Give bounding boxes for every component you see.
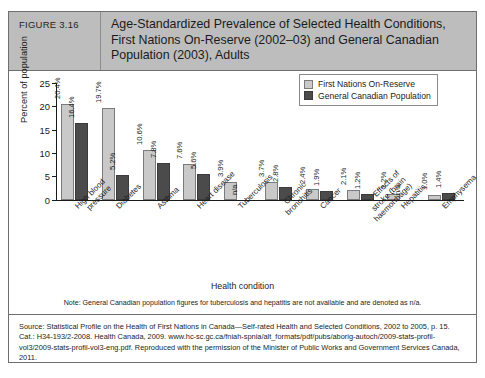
bar-value-label: 5.6%: [189, 151, 198, 171]
figure-note: Note: General Canadian population figure…: [9, 299, 476, 307]
chart-area: Percent of population 0510152025 20.4%16…: [9, 71, 476, 314]
x-axis-title: Health condition: [9, 281, 476, 291]
legend-item-series1: First Nations On-Reserve: [304, 79, 431, 89]
figure-title: Age-Standardized Prevalence of Selected …: [101, 12, 476, 70]
legend-swatch-first-nations: [304, 80, 313, 89]
y-tick-label: 20: [40, 101, 50, 112]
figure-frame: FIGURE 3.16 Age-Standardized Prevalence …: [8, 11, 477, 363]
bar: [75, 123, 88, 200]
legend-label-general-canadian: General Canadian Population: [318, 91, 431, 101]
y-tick-label: 15: [40, 124, 50, 135]
y-tick-mark: [52, 200, 56, 201]
bar-value-label: 1.9%: [312, 169, 321, 189]
bar-value-label: n/a: [230, 184, 239, 198]
legend-swatch-general-canadian: [304, 91, 313, 100]
y-tick-label: 0: [45, 194, 50, 205]
figure-source-block: Source: Statistical Profile on the Healt…: [9, 315, 476, 370]
bar-value-label: 1.2%: [353, 172, 362, 192]
figure-source-text: Source: Statistical Profile on the Healt…: [19, 322, 466, 364]
figure-page: FIGURE 3.16 Age-Standardized Prevalence …: [0, 0, 485, 378]
y-tick-label: 10: [40, 147, 50, 158]
bar-value-label: 7.6%: [175, 142, 184, 162]
bar-group: 19.7%5.2%: [101, 83, 138, 200]
y-tick-label: 25: [40, 77, 50, 88]
y-axis-title: Percent of population: [19, 36, 29, 123]
legend-item-series2: General Canadian Population: [304, 91, 431, 101]
chart-legend: First Nations On-Reserve General Canadia…: [299, 74, 438, 107]
bar: [428, 195, 441, 200]
figure-header: FIGURE 3.16 Age-Standardized Prevalence …: [9, 12, 476, 71]
bar-value-label: 1.4%: [434, 171, 443, 191]
bar-value-label: 2.1%: [339, 168, 348, 188]
bar-value-label: 5.2%: [108, 153, 117, 173]
bar-group: 20.4%16.4%: [60, 83, 97, 200]
bar-value-label: 16.4%: [67, 96, 76, 121]
bar-value-label: 10.6%: [135, 124, 144, 149]
bar-value-label: 7.8%: [149, 141, 158, 161]
bar-group: 10.6%7.8%: [142, 83, 179, 200]
bar-value-label: 19.7%: [94, 81, 103, 106]
y-tick-label: 5: [45, 171, 50, 182]
bar-group: 7.6%5.6%: [182, 83, 219, 200]
legend-label-first-nations: First Nations On-Reserve: [318, 79, 415, 89]
bar-value-label: 20.4%: [53, 78, 62, 103]
